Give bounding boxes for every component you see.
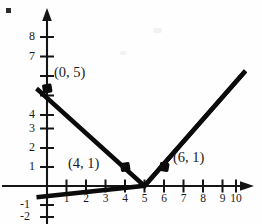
y-tick-label-1: 1 (13, 160, 35, 172)
x-tick-label-3: 3 (96, 193, 116, 205)
y-tick-label-neg2: -2 (8, 210, 30, 222)
y-axis-arrow-icon (42, 8, 52, 21)
y-tick-label-8: 8 (13, 30, 35, 42)
point-label-4-1: (4, 1) (68, 156, 99, 171)
y-axis-group (40, 8, 54, 224)
point-marker-6-1 (159, 162, 170, 172)
y-tick-label-3: 3 (13, 122, 35, 134)
y-tick-label-7: 7 (13, 50, 35, 62)
x-axis-arrow-icon (240, 181, 254, 191)
point-label-0-5: (0, 5) (54, 65, 85, 80)
x-tick-label-4: 4 (115, 193, 135, 205)
plotted-points (42, 83, 170, 172)
x-tick-label-5: 5 (135, 193, 155, 205)
x-tick-label-6: 6 (154, 193, 174, 205)
point-label-6-1: (6, 1) (173, 150, 204, 165)
y-tick-label-2: 2 (13, 141, 35, 153)
point-marker-0-5 (42, 83, 53, 93)
point-marker-4-1 (120, 162, 131, 172)
x-tick-label-1: 1 (57, 193, 77, 205)
x-tick-label-2: 2 (76, 193, 96, 205)
graph-figure: 8 7 4 3 2 1 -1 -2 1 2 3 4 5 6 7 8 9 10 (… (0, 0, 262, 224)
x-tick-label-10: 10 (226, 193, 246, 205)
graph-canvas (0, 0, 262, 224)
x-tick-label-8: 8 (193, 193, 213, 205)
x-tick-label-7: 7 (174, 193, 194, 205)
y-tick-label-4: 4 (13, 108, 35, 120)
v-shape-line (37, 71, 246, 198)
absolute-value-curve (37, 71, 246, 198)
